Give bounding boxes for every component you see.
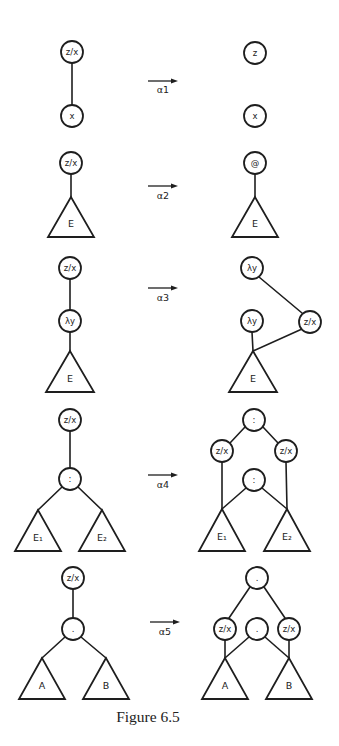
tree-edge: [222, 488, 246, 509]
subtree-triangle: E₁: [15, 510, 61, 551]
triangle-shape: [46, 351, 94, 392]
tree-edge: [38, 487, 62, 510]
rewrite-arrow: α5: [150, 619, 180, 637]
subtree-label: E: [250, 373, 256, 384]
subtree-triangle: E: [229, 351, 277, 392]
subtree-label: E₁: [33, 532, 43, 543]
tree-node-lambda-y-top: λy: [241, 257, 263, 279]
node-label: x: [252, 111, 257, 121]
arrow-right-icon: [171, 472, 178, 477]
left-tree: Ez/xλy: [46, 257, 94, 392]
triangle-shape: [266, 658, 312, 699]
tree-edge: [259, 277, 302, 313]
node-label: z/x: [280, 446, 292, 456]
rule-label: α3: [157, 292, 169, 303]
node-label: λy: [65, 316, 75, 326]
node-label: @: [251, 158, 260, 168]
subtree-triangle: E: [48, 197, 94, 237]
subtree-triangle: E: [46, 351, 94, 392]
node-label: z/x: [65, 158, 77, 168]
rule-row-alpha1: z/xxzxα1: [61, 41, 266, 127]
node-label: .: [256, 573, 259, 583]
tree-edge: [286, 462, 287, 509]
transformation-rules: z/xxzxα1Ez/xE@α2Ez/xλyEλyλyz/xα3E₁E₂z/x:…: [15, 41, 321, 699]
tree-node-zx-left: z/x: [211, 440, 233, 462]
right-tree: AB.z/x.z/x: [202, 567, 312, 699]
subtree-label: E₂: [97, 532, 107, 543]
tree-node-zx-left: z/x: [214, 618, 236, 640]
tree-node-x: x: [61, 105, 83, 127]
subtree-triangle: E₂: [79, 510, 125, 551]
figure-caption: Figure 6.5: [116, 708, 180, 725]
subtree-triangle: B: [266, 658, 312, 699]
triangle-shape: [202, 658, 248, 699]
tree-node-dot-top: .: [246, 567, 268, 589]
tree-edge: [230, 427, 245, 443]
node-label: z/x: [66, 47, 78, 57]
subtree-label: E: [252, 218, 258, 229]
rewrite-arrow: α4: [148, 472, 178, 490]
rewrite-arrow: α2: [148, 183, 178, 201]
arrow-right-icon: [171, 78, 178, 83]
rewrite-arrow: α3: [148, 285, 178, 303]
tree-node-colon-mid: :: [243, 469, 265, 491]
subtree-triangle: E: [232, 197, 278, 237]
tree-edge: [253, 329, 302, 351]
rule-label: α2: [157, 190, 169, 201]
tree-node-zx: z/x: [299, 311, 321, 333]
right-tree: Eλyλyz/x: [229, 257, 321, 392]
node-label: λy: [247, 316, 257, 326]
tree-edge: [229, 587, 250, 618]
tree-edge: [252, 332, 253, 351]
subtree-label: A: [39, 680, 46, 691]
subtree-label: E: [68, 218, 74, 229]
tree-node-lambda-y: λy: [241, 310, 263, 332]
node-label: z/x: [219, 624, 231, 634]
triangle-shape: [19, 658, 65, 699]
tree-node-colon-top: :: [243, 409, 265, 431]
rule-label: α5: [159, 626, 171, 637]
node-label: z/x: [64, 415, 76, 425]
left-tree: ABz/x.: [19, 567, 129, 699]
tree-edge: [81, 637, 106, 658]
rewrite-arrow: α1: [148, 78, 178, 95]
subtree-triangle: E₁: [199, 509, 245, 551]
subtree-triangle: A: [19, 658, 65, 699]
tree-edge: [42, 637, 65, 658]
triangle-shape: [83, 658, 129, 699]
node-label: λy: [247, 263, 257, 273]
rule-row-alpha2: Ez/xE@α2: [48, 152, 278, 237]
tree-node-zx: z/x: [62, 567, 84, 589]
node-label: .: [256, 624, 259, 634]
tree-node-dot-mid: .: [246, 618, 268, 640]
tree-node-zx: z/x: [61, 41, 83, 63]
tree-edge: [264, 587, 285, 618]
subtree-label: E: [67, 373, 73, 384]
subtree-label: A: [222, 680, 229, 691]
triangle-shape: [15, 510, 61, 551]
tree-edge: [262, 488, 287, 509]
tree-node-lambda-y: λy: [59, 310, 81, 332]
right-tree: zx: [244, 42, 266, 127]
arrow-right-icon: [173, 619, 180, 624]
subtree-triangle: E₂: [264, 509, 310, 551]
node-label: z/x: [304, 317, 316, 327]
right-tree: E₁E₂:z/xz/x:: [199, 409, 310, 551]
tree-node-zx: z/x: [59, 257, 81, 279]
subtree-label: E₁: [217, 531, 227, 542]
tree-node-z: z: [244, 42, 266, 64]
tree-edge: [263, 427, 278, 443]
tree-node-x: x: [244, 105, 266, 127]
tree-edge: [78, 487, 102, 510]
arrow-right-icon: [171, 285, 178, 290]
subtree-label: B: [286, 680, 293, 691]
triangle-shape: [264, 509, 310, 551]
triangle-shape: [199, 509, 245, 551]
tree-node-at: @: [244, 152, 266, 174]
node-label: .: [72, 624, 75, 634]
figure-6-5: z/xxzxα1Ez/xE@α2Ez/xλyEλyλyz/xα3E₁E₂z/x:…: [0, 0, 339, 746]
subtree-label: B: [103, 680, 110, 691]
tree-node-zx: z/x: [60, 152, 82, 174]
node-label: z/x: [216, 446, 228, 456]
rule-row-alpha5: ABz/x.AB.z/x.z/xα5: [19, 567, 312, 699]
